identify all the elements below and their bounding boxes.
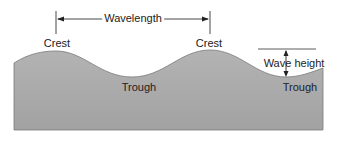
wave-height-label: Wave height bbox=[264, 58, 325, 69]
wave-height-arrowhead-up-icon bbox=[284, 50, 289, 56]
wavelength-arrowhead-left-icon bbox=[57, 17, 64, 22]
wave-diagram: Wavelength Crest Crest Trough Trough Wav… bbox=[0, 0, 340, 142]
wavelength-label: Wavelength bbox=[102, 13, 164, 24]
wave-graphic bbox=[0, 0, 340, 142]
trough-left-label: Trough bbox=[122, 82, 156, 93]
trough-right-label: Trough bbox=[283, 82, 317, 93]
crest-right-label: Crest bbox=[196, 38, 222, 49]
crest-left-label: Crest bbox=[44, 38, 70, 49]
wave-height-arrowhead-down-icon bbox=[284, 71, 289, 77]
wavelength-arrowhead-right-icon bbox=[202, 17, 209, 22]
